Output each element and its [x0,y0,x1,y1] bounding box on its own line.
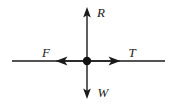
weight-force-label: W [98,85,110,100]
point-mass-dot [83,57,91,65]
force-diagram: R W F T [0,0,173,107]
tension-force-label: T [128,45,136,60]
force-diagram-container: R W F T [0,0,173,107]
reaction-force-label: R [96,5,105,20]
friction-force-label: F [41,45,51,60]
